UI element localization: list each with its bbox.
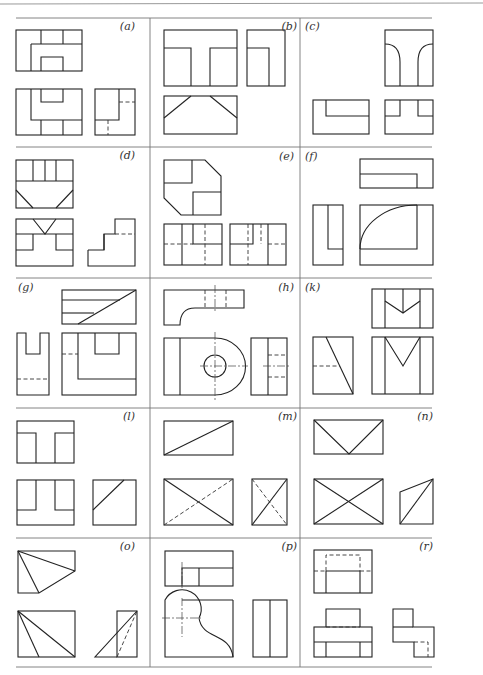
side-view: [400, 479, 433, 524]
page-top-rule: [0, 3, 483, 4]
panel-b: (b): [164, 20, 297, 134]
top-view: [165, 551, 233, 590]
front-view: [62, 333, 136, 395]
panel-label: (d): [119, 149, 135, 162]
side-view: [251, 338, 290, 395]
panel-d: (d): [16, 149, 135, 266]
top-view: [62, 290, 136, 324]
front-view: [16, 219, 73, 266]
panel-label: (l): [123, 410, 135, 423]
front-view: [164, 224, 222, 265]
panel-label: (r): [419, 540, 433, 553]
panel-c: (c): [305, 20, 433, 134]
panel-g: (g): [17, 281, 136, 395]
panel-label: (h): [278, 281, 294, 294]
panel-label: (m): [278, 410, 297, 423]
front-view: [314, 479, 383, 524]
top-view: [17, 421, 74, 463]
top-view: [164, 96, 237, 134]
panel-k: (k): [305, 281, 433, 394]
front-view: [313, 100, 369, 134]
front-view: [162, 590, 233, 657]
panel-label: (k): [305, 281, 320, 294]
panel-label: (e): [279, 150, 294, 163]
panel-label: (a): [120, 20, 135, 33]
side-view: [247, 30, 285, 86]
side-view: [385, 30, 433, 86]
panel-l: (l): [17, 410, 136, 525]
panel-e: (e): [164, 150, 294, 265]
front-view: [164, 30, 237, 86]
top-view: [385, 100, 433, 134]
top-view: [372, 289, 433, 328]
top-view: [314, 550, 372, 593]
top-view: [164, 160, 221, 215]
top-view: [314, 420, 383, 454]
front-view: [164, 479, 233, 525]
panel-label: (c): [305, 20, 320, 33]
front-view: [16, 89, 82, 135]
front-view: [314, 609, 372, 657]
panel-n: (n): [314, 410, 433, 524]
panel-m: (m): [164, 410, 297, 525]
side-view: [313, 337, 353, 394]
side-view: [95, 611, 137, 657]
projection-sheet: (a) (b): [0, 0, 483, 675]
column-rules: [150, 18, 300, 667]
top-view: [164, 421, 233, 455]
side-view: [17, 333, 49, 395]
side-view: [393, 609, 434, 657]
front-view: [360, 205, 433, 265]
panel-p: (p): [162, 540, 297, 657]
panel-h: (h): [164, 281, 294, 400]
side-view: [230, 224, 286, 265]
side-view: [95, 89, 135, 135]
top-view: [16, 160, 73, 208]
side-view: [93, 480, 136, 525]
panel-a: (a): [16, 20, 135, 135]
top-view: [360, 159, 433, 188]
side-view: [252, 479, 287, 525]
side-view: [88, 219, 135, 266]
front-view: [18, 611, 75, 657]
panel-label: (p): [281, 540, 297, 553]
front-view: [372, 337, 433, 394]
front-view: [17, 480, 74, 525]
panel-f: (f): [305, 150, 433, 265]
front-view: [164, 332, 248, 400]
top-view: [16, 30, 82, 71]
panel-r: (r): [314, 540, 434, 657]
top-view: [18, 551, 75, 593]
side-view: [313, 205, 343, 265]
panel-label: (n): [417, 410, 433, 423]
top-view: [164, 285, 244, 325]
panel-label: (o): [120, 540, 135, 553]
panel-label: (b): [281, 20, 297, 33]
side-view: [253, 600, 287, 657]
panel-label: (g): [18, 281, 34, 294]
panel-o: (o): [18, 540, 137, 657]
panel-label: (f): [305, 150, 318, 163]
